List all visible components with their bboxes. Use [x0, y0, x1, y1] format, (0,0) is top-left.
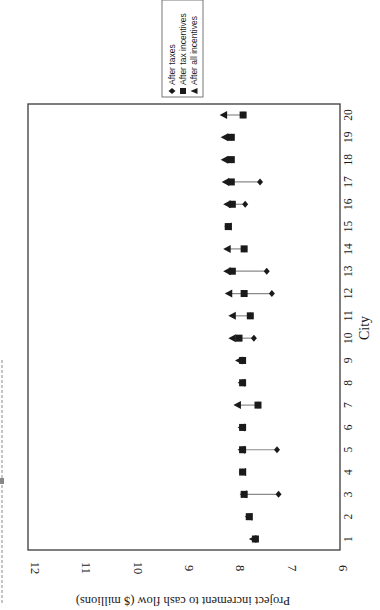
square-marker-icon	[228, 134, 235, 141]
value-tick-label: 7	[285, 565, 299, 571]
category-tick-label: 16	[342, 198, 354, 210]
square-marker-icon	[240, 112, 247, 119]
rotated-chart: 6789101112 12345678910111213141516171819…	[0, 0, 380, 610]
category-tick-label: 10	[342, 332, 354, 344]
diamond-marker-icon	[269, 290, 275, 297]
city-point-group	[249, 535, 259, 543]
value-tick-label: 9	[182, 565, 196, 571]
data-points	[220, 111, 282, 543]
category-tick-label: 11	[342, 310, 354, 321]
city-point-group	[238, 379, 247, 387]
square-marker-icon	[228, 156, 235, 163]
clipped-title-fragment	[0, 360, 4, 605]
diamond-marker-icon	[257, 178, 263, 185]
category-axis-ticks: 1234567891011121314151617181920	[342, 109, 354, 542]
diamond-marker-icon	[276, 491, 282, 498]
legend-item-after-tax-incentives: After tax incentives	[178, 13, 188, 85]
category-tick-label: 3	[342, 491, 354, 497]
value-tick-label: 10	[131, 562, 145, 575]
diamond-marker-icon	[242, 201, 248, 208]
square-marker-icon	[236, 335, 243, 342]
city-point-group	[228, 334, 257, 342]
triangle-marker-icon	[228, 312, 236, 320]
city-point-group	[225, 290, 275, 298]
legend-item-after-all-incentives: After all incentives	[189, 16, 199, 85]
legend-square-icon	[180, 88, 186, 94]
triangle-marker-icon	[223, 245, 231, 253]
value-tick-label: 8	[233, 565, 247, 571]
triangle-marker-icon	[225, 290, 233, 298]
city-point-group	[222, 178, 263, 186]
value-tick-label: 12	[28, 562, 42, 575]
category-tick-label: 5	[342, 447, 354, 453]
city-point-group	[224, 223, 232, 231]
category-tick-label: 12	[342, 288, 354, 300]
city-point-group	[235, 356, 246, 364]
city-point-group	[223, 267, 270, 275]
category-tick-label: 17	[342, 176, 354, 188]
triangle-marker-icon	[222, 178, 230, 186]
city-point-group	[223, 200, 248, 208]
triangle-marker-icon	[221, 156, 229, 164]
value-axis-label: Project increment to cash flow ($ millio…	[76, 594, 291, 608]
city-point-group	[228, 312, 253, 320]
square-marker-icon	[247, 312, 254, 319]
legend-item-after-taxes: After taxes	[167, 44, 177, 85]
value-tick-label: 11	[79, 562, 93, 574]
triangle-marker-icon	[223, 267, 231, 275]
triangle-marker-icon	[220, 111, 228, 119]
category-tick-label: 9	[342, 357, 354, 363]
diamond-marker-icon	[251, 335, 257, 342]
city-point-group	[221, 133, 235, 141]
category-axis-label: City	[357, 316, 372, 340]
category-tick-label: 20	[342, 109, 354, 121]
city-point-group	[240, 490, 282, 498]
category-tick-label: 19	[342, 131, 354, 143]
diamond-marker-icon	[274, 446, 280, 453]
city-point-group	[245, 513, 253, 521]
triangle-marker-icon	[221, 133, 229, 141]
square-marker-icon	[255, 402, 262, 409]
value-tick-label: 6	[336, 565, 350, 571]
city-point-group	[239, 468, 247, 476]
category-tick-label: 1	[342, 536, 354, 542]
square-marker-icon	[241, 290, 248, 297]
plot-frame	[28, 104, 340, 550]
triangle-marker-icon	[228, 334, 236, 342]
category-tick-label: 4	[342, 469, 354, 475]
city-point-group	[238, 423, 247, 431]
city-point-group	[221, 156, 235, 164]
city-point-group	[220, 111, 247, 119]
category-tick-label: 15	[342, 221, 354, 233]
category-tick-label: 18	[342, 154, 354, 166]
legend: After taxes After tax incentives After a…	[162, 0, 203, 97]
category-tick-label: 2	[342, 514, 354, 520]
category-tick-label: 13	[342, 265, 354, 277]
triangle-marker-icon	[223, 200, 231, 208]
value-axis-ticks: 6789101112	[28, 562, 350, 575]
category-tick-label: 6	[342, 424, 354, 430]
category-tick-label: 7	[342, 402, 354, 408]
city-point-group	[233, 401, 261, 409]
triangle-marker-icon	[235, 356, 243, 364]
category-tick-label: 14	[342, 243, 354, 255]
city-point-group	[223, 245, 247, 253]
diamond-marker-icon	[264, 268, 270, 275]
city-point-group	[238, 446, 280, 454]
square-marker-icon	[241, 245, 248, 252]
triangle-marker-icon	[233, 401, 241, 409]
category-tick-label: 8	[342, 380, 354, 386]
